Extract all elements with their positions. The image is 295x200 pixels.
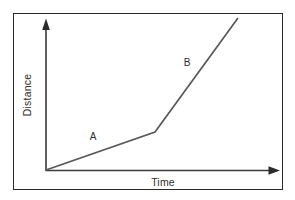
segment-label-b: B bbox=[184, 57, 191, 68]
arrow-right-icon bbox=[269, 166, 281, 174]
segment-label-a: A bbox=[90, 131, 97, 142]
distance-time-graph-figure: Distance Time A B bbox=[0, 0, 295, 200]
arrow-up-icon bbox=[42, 19, 50, 31]
distance-time-polyline bbox=[46, 18, 238, 170]
x-axis-title: Time bbox=[151, 176, 175, 188]
y-axis-title: Distance bbox=[21, 74, 33, 116]
plot-canvas bbox=[0, 0, 295, 200]
